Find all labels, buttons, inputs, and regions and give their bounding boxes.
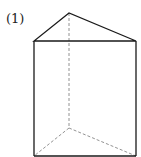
hidden-bottom-left-edge	[34, 128, 69, 156]
top-triangle-face	[34, 13, 136, 41]
triangular-prism-diagram	[0, 0, 141, 157]
hidden-bottom-right-edge	[69, 128, 136, 156]
